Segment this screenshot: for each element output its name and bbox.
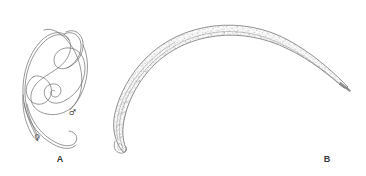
female-worm-body	[23, 29, 82, 137]
male-symbol: ♂	[69, 109, 76, 117]
panel-b-drawing	[100, 0, 366, 176]
male-worm-contour	[64, 33, 81, 68]
worm-body-fill	[114, 25, 348, 152]
arched-worm	[114, 25, 351, 153]
worm-pair-outlines	[23, 29, 88, 148]
panel-b: B	[100, 0, 366, 176]
worm-body-stipple	[114, 25, 348, 152]
panel-a-caption: A	[54, 155, 66, 164]
worm-body-outline	[114, 25, 348, 152]
worm-internal-lines	[117, 32, 340, 146]
panel-b-caption: B	[321, 155, 333, 164]
male-worm-anterior	[70, 45, 87, 110]
figure-plate: ♂ ♀ A	[0, 0, 366, 176]
male-worm-spiral-coil	[44, 84, 66, 103]
worm-body-dashes	[114, 25, 348, 152]
female-symbol: ♀	[34, 134, 40, 142]
